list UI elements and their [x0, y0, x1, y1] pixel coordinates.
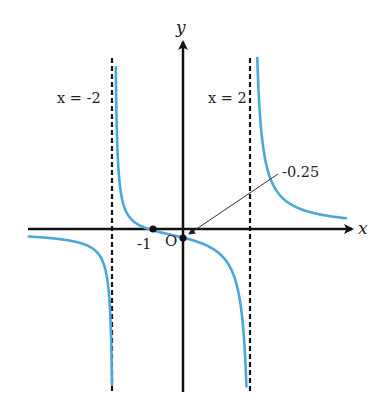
function-graph: y x x = -2 x = 2 -0.25 -1 O: [0, 0, 376, 412]
y-axis-label: y: [175, 17, 186, 37]
left-asymptote-label: x = -2: [57, 90, 101, 106]
origin-label: O: [165, 232, 177, 250]
y-intercept-point: [179, 234, 186, 241]
root-point: [149, 225, 156, 232]
root-label: -1: [137, 235, 152, 253]
curve-branch-middle: [116, 66, 247, 387]
curve-branch-left: [28, 236, 112, 386]
right-asymptote-label: x = 2: [208, 90, 247, 106]
x-axis-label: x: [358, 218, 368, 238]
intercept-label: -0.25: [282, 164, 319, 180]
curve-branch-right: [257, 57, 347, 218]
intercept-pointer: [189, 174, 278, 234]
